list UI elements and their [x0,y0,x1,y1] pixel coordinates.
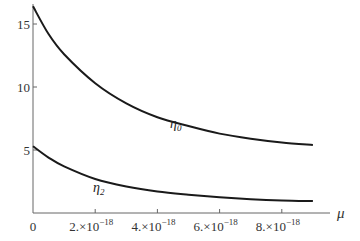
x-tick-label: 8.×10−18 [256,217,301,234]
x-tick-label: 4.×10−18 [131,217,176,234]
curves: η0η2 [33,6,313,201]
y-tick-label: 10 [17,80,30,95]
x-tick-label: 0 [30,219,37,234]
series-label-η2: η2 [93,180,105,197]
y-ticks: 51015 [17,17,37,158]
x-axis-label: μ [336,205,345,221]
series-curve-η2 [33,146,313,201]
y-tick-label: 15 [17,17,30,32]
axes [33,4,330,213]
line-chart: 02.×10−184.×10−186.×10−188.×10−18 51015 … [0,0,360,241]
x-tick-label: 2.×10−18 [69,217,114,234]
series-label-η0: η0 [170,116,182,133]
x-tick-label: 6.×10−18 [194,217,239,234]
y-tick-label: 5 [24,143,31,158]
